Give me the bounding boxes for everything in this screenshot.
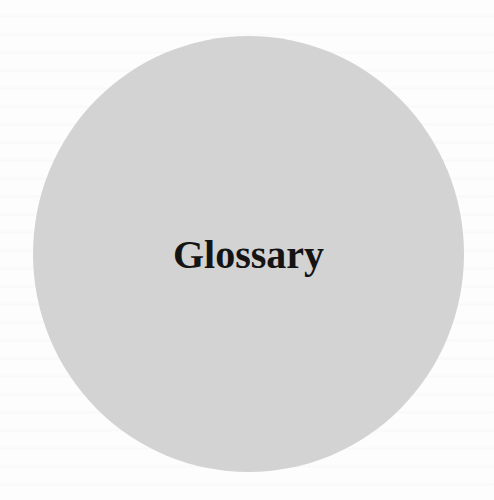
page: Glossary [0,0,494,500]
page-title: Glossary [173,231,324,278]
title-circle: Glossary [33,36,464,472]
